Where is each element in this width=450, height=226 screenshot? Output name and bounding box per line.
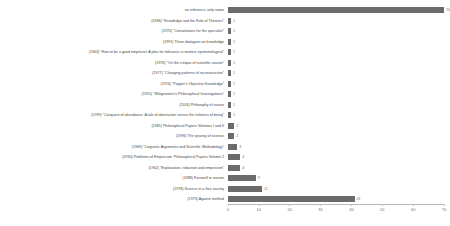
bar-track: 1 — [228, 27, 444, 36]
bar — [228, 102, 231, 108]
x-axis-tick: 50 — [380, 204, 384, 213]
bar-row: (1978) Science in a free society11 — [0, 185, 444, 194]
bar-value-label: 2 — [236, 122, 238, 131]
bar-track: 1 — [228, 69, 444, 78]
bar-category-label: (1963) "How to be a good empiricist: A p… — [0, 48, 228, 57]
bar-value-label: 1 — [233, 27, 235, 36]
bar — [228, 112, 231, 118]
bar-category-label: (1991) Three dialogues on knowledge — [0, 38, 228, 47]
bar — [228, 144, 237, 150]
bar — [228, 154, 240, 160]
x-axis-tick: 20 — [287, 204, 291, 213]
bar-row: (1974) "Popper's Objective Knowledge"1 — [0, 80, 444, 89]
x-axis-tick-label: 0 — [227, 206, 229, 213]
bar-track: 41 — [228, 195, 444, 204]
bar-category-label: no reference, only name — [0, 6, 228, 15]
bar-track: 1 — [228, 59, 444, 68]
bar-row: (1970) "Consolations for the specialist"… — [0, 27, 444, 36]
x-axis-tick: 0 — [227, 204, 229, 213]
bar — [228, 39, 231, 45]
bar-category-label: (2016) Philosophy of nature — [0, 101, 228, 110]
bar-track: 9 — [228, 174, 444, 183]
bar-value-label: 1 — [233, 111, 235, 120]
bar — [228, 186, 262, 192]
bar-category-label: (1962) "Explanation, reduction and empir… — [0, 164, 228, 173]
bar-row: (1955) "Wittgenstein's Philosophical Inv… — [0, 90, 444, 99]
bar — [228, 70, 231, 76]
bar-track: 2 — [228, 122, 444, 131]
x-axis-tick-label: 20 — [287, 206, 291, 213]
bar-row: (1988) Farewell to reason9 — [0, 174, 444, 183]
bar — [228, 91, 231, 97]
bar-track: 4 — [228, 153, 444, 162]
bar — [228, 175, 256, 181]
bar-track: 1 — [228, 111, 444, 120]
bar-value-label: 1 — [233, 59, 235, 68]
bar-track: 1 — [228, 17, 444, 26]
bar — [228, 165, 240, 171]
bar-row: (1996) The tyranny of science2 — [0, 132, 444, 141]
bar — [228, 60, 231, 66]
bar — [228, 49, 231, 55]
bar-category-label: (1999) "Conquest of abundance: A tale of… — [0, 111, 228, 120]
x-axis-tick: 40 — [349, 204, 353, 213]
bar — [228, 28, 231, 34]
bar — [228, 7, 444, 13]
bar-value-label: 1 — [233, 80, 235, 89]
bar — [228, 196, 355, 202]
x-axis-tick-label: 10 — [257, 206, 261, 213]
bar-row: (1976) "On the critique of scientific re… — [0, 59, 444, 68]
bar-track: 1 — [228, 80, 444, 89]
bar-category-label: (1978) Science in a free society — [0, 185, 228, 194]
plot-area: no reference, only name70(1986) "Knowled… — [0, 6, 444, 204]
x-axis-tick: 10 — [257, 204, 261, 213]
bar-track: 70 — [228, 6, 444, 15]
bar-row: (1981) Philosophical Papers Volumes I an… — [0, 122, 444, 131]
bar-value-label: 1 — [233, 101, 235, 110]
x-axis-tick: 60 — [411, 204, 415, 213]
bar-rows: no reference, only name70(1986) "Knowled… — [0, 6, 444, 204]
x-axis: 010203040506070 — [228, 204, 444, 216]
bar-track: 1 — [228, 101, 444, 110]
bar-value-label: 4 — [242, 164, 244, 173]
bar-value-label: 11 — [264, 185, 268, 194]
bar-track: 3 — [228, 143, 444, 152]
bar-value-label: 9 — [258, 174, 260, 183]
bar-value-label: 1 — [233, 38, 235, 47]
bar-track: 1 — [228, 38, 444, 47]
bar-track: 1 — [228, 48, 444, 57]
bar-row: (1975) Against method41 — [0, 195, 444, 204]
bar-category-label: (1970) "Consolations for the specialist" — [0, 27, 228, 36]
bar-row: (1990) Problems of Empiricism: Philosoph… — [0, 153, 444, 162]
x-axis-tick-label: 40 — [349, 206, 353, 213]
bar-value-label: 3 — [239, 143, 241, 152]
bar-value-label: 1 — [233, 48, 235, 57]
bar-row: (1977) "Changing patterns of reconstruct… — [0, 69, 444, 78]
bar-category-label: (1969) "Linguistic Arguments and Scienti… — [0, 143, 228, 152]
bar-value-label: 1 — [233, 17, 235, 26]
x-axis-tick-label: 30 — [318, 206, 322, 213]
x-axis-tick-label: 70 — [442, 206, 446, 213]
bar-category-label: (1996) The tyranny of science — [0, 132, 228, 141]
bar-track: 11 — [228, 185, 444, 194]
bar-row: (1986) "Knowledge and the Role of Theori… — [0, 17, 444, 26]
bar-row: (1962) "Explanation, reduction and empir… — [0, 164, 444, 173]
bar-row: (2016) Philosophy of nature1 — [0, 101, 444, 110]
bar-value-label: 70 — [446, 6, 450, 15]
bar-category-label: (1974) "Popper's Objective Knowledge" — [0, 80, 228, 89]
x-axis-tick: 30 — [318, 204, 322, 213]
bar-category-label: (1977) "Changing patterns of reconstruct… — [0, 69, 228, 78]
bar-category-label: (1976) "On the critique of scientific re… — [0, 59, 228, 68]
x-axis-tick: 70 — [442, 204, 446, 213]
bar — [228, 123, 234, 129]
bar — [228, 18, 231, 24]
bar-row: (1963) "How to be a good empiricist: A p… — [0, 48, 444, 57]
bar-value-label: 1 — [233, 69, 235, 78]
bar-category-label: (1986) "Knowledge and the Role of Theori… — [0, 17, 228, 26]
bar-value-label: 4 — [242, 153, 244, 162]
bar — [228, 81, 231, 87]
bar-track: 4 — [228, 164, 444, 173]
bar-row: (1991) Three dialogues on knowledge1 — [0, 38, 444, 47]
bar-category-label: (1981) Philosophical Papers Volumes I an… — [0, 122, 228, 131]
bar-row: (1999) "Conquest of abundance: A tale of… — [0, 111, 444, 120]
